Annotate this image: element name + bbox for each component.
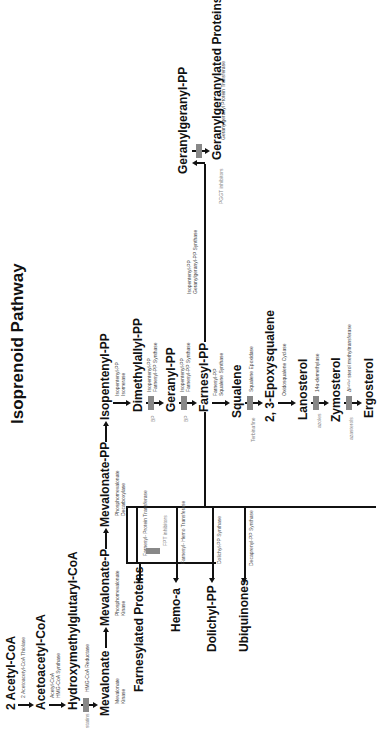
- inhibition-block: [346, 396, 352, 410]
- node-hemo-a: Hemo-a: [169, 588, 183, 632]
- inhibitor-azasterols: azasterols: [348, 417, 354, 440]
- node-isopentenyl-pp: Isopentenyl-PP: [98, 333, 112, 420]
- node-geranylgeranyl-pp: Geranylgeranyl-PP: [176, 67, 190, 174]
- enzyme-ggpp-synthase: Isopentenyl-PPGeranylgeranyl-PP Synthase: [186, 230, 198, 294]
- node-hmg-coa: Hydroxymethylglutaryl-CoA: [66, 551, 80, 710]
- node-mevalonate-p: Mevalonate-P: [98, 549, 112, 626]
- inhibition-block: [313, 396, 319, 410]
- arrow-line: [139, 564, 141, 578]
- branch-line: [126, 507, 376, 509]
- enzyme-ftase: Farnesyl- Protein Transferase: [142, 490, 148, 556]
- node-dolichyl-pp: Dolichyl-PP: [205, 585, 219, 652]
- inhibitor-fpt: FPT inhibitors: [162, 515, 168, 546]
- inhibition-block: [83, 698, 89, 712]
- inhibitor-terbinafine: Terbinafine: [250, 418, 256, 442]
- inhibitor-bp-2: BP: [183, 415, 189, 422]
- node-farnesylated-proteins: Farnesylated Proteins: [132, 567, 146, 692]
- node-lanosterol: Lanosterol: [296, 359, 310, 420]
- branch-line: [126, 507, 128, 564]
- node-ubiquinones: Ubiquinones: [237, 579, 251, 652]
- arrow-line: [244, 508, 246, 578]
- arrow-head: [103, 627, 109, 632]
- arrow-head: [103, 421, 109, 426]
- inhibition-block: [247, 396, 253, 410]
- node-farnesyl-pp: Farnesyl-PP: [197, 343, 211, 412]
- enzyme-isomerase: Isopentenyl-PPIsomerase: [114, 362, 126, 396]
- enzyme-mevalonate-kinase: MevalonateKinase: [114, 678, 126, 704]
- enzyme-oxidosqualene-cyclase: Oxidosqualene Cyclase: [281, 343, 287, 396]
- enzyme-phosphomevalonate-kinase: PhosphomevalonateKinase: [114, 570, 126, 616]
- inhibition-block: [181, 396, 187, 410]
- node-zymosterol: Zymosterol: [329, 357, 343, 422]
- inhibition-block: [196, 144, 202, 158]
- arrow-head: [103, 528, 109, 533]
- node-acetoacetyl-coa: Acetoacetyl-CoA: [34, 614, 48, 710]
- node-epoxysqualene: 2, 3-Epoxysqualene: [263, 310, 277, 422]
- arrow-line: [176, 508, 178, 578]
- arrow-head: [192, 161, 197, 167]
- node-mevalonate-pp: Mevalonate-PP: [98, 442, 112, 527]
- arrow-head: [209, 578, 215, 583]
- branch-line: [136, 508, 138, 564]
- enzyme-methyltransferase: Δ²⁴⁽²⁸⁾ sterol methyltransferase: [346, 324, 352, 392]
- enzyme-hmg-reductase: HMG-CoA Reductase: [84, 644, 90, 692]
- inhibition-block: [148, 396, 154, 410]
- pathway-diagram: Isoprenoid Pathway 2 Acetyl-CoA 2 Acetoa…: [0, 0, 383, 734]
- inhibitor-azoles: azoles: [316, 414, 322, 428]
- node-dimethylallyl-pp: Dimethylallyl-PP: [131, 318, 145, 412]
- arrow-line: [105, 424, 107, 442]
- node-geranylgeranylated-proteins: Geranylgeranylated Proteins: [210, 0, 224, 160]
- arrow-line: [105, 531, 107, 549]
- enzyme-hmg-synthase: Acetyl-CoAHMG-CoA Synthase: [49, 653, 61, 698]
- enzyme-demethylase: 14α-demethylase: [314, 354, 320, 392]
- node-acetyl-coa: 2 Acetyl-CoA: [4, 636, 18, 710]
- arrow-line: [105, 630, 107, 648]
- enzyme-decaprenyl-synthase: Decaprenyl-PP Synthase: [248, 510, 254, 566]
- enzyme-fpp-synthase-a: Isopentenyl-PPFarnesyl-PP Synthase: [146, 342, 158, 392]
- arrow-line: [212, 508, 214, 578]
- arrow-line: [204, 164, 206, 342]
- node-squalene: Squalene: [230, 365, 244, 418]
- branch-line: [204, 412, 206, 508]
- node-mevalonate: Mevalonate: [98, 651, 112, 716]
- arrow-head: [173, 578, 179, 583]
- enzyme-squalene-epoxidase: Squalene Epoxidase: [248, 346, 254, 392]
- arrow-line: [196, 163, 205, 165]
- inhibitor-pggt: PGGT inhibitors: [218, 169, 224, 204]
- enzyme-squalene-synthase: Farnesyl-PPSqualene Synthase: [212, 353, 224, 396]
- inhibitor-statins: statins: [84, 714, 90, 728]
- arrow-head: [136, 578, 142, 583]
- enzyme-dolichyl-synthase: Dolichyl-PP Synthase: [216, 516, 222, 564]
- enzyme-thiolase: 2 Acetoacetyl-CoA Thiolase: [20, 637, 26, 698]
- inhibition-block: [146, 548, 160, 554]
- node-ergosterol: Ergosterol: [362, 358, 376, 418]
- enzyme-hemo-transferase: Farnesyl- Hemo Transferase: [180, 501, 186, 564]
- inhibitor-bp-1: BP: [150, 415, 156, 422]
- arrow-line: [136, 563, 146, 565]
- enzyme-fpp-synthase-b: Isopentenyl-PPFarnesyl-PP Synthase: [179, 342, 191, 392]
- diagram-title: Isoprenoid Pathway: [8, 263, 28, 424]
- node-geranyl-pp: Geranyl-PP: [164, 347, 178, 412]
- enzyme-decarboxylase: PhosphomevalonateDecarboxylase: [114, 470, 126, 516]
